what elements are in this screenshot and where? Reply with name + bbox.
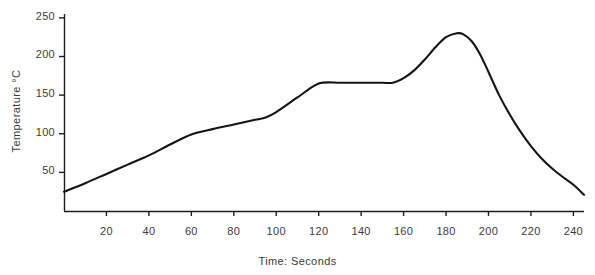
y-tick-label: 250 <box>10 10 55 22</box>
reflow-profile-chart: 50100150200250 2040608010012014016018020… <box>0 0 595 275</box>
x-tick-label: 240 <box>553 225 593 237</box>
x-tick-label: 140 <box>341 225 381 237</box>
x-tick-label: 200 <box>468 225 508 237</box>
x-tick-label: 160 <box>384 225 424 237</box>
x-tick-label: 100 <box>256 225 296 237</box>
x-tick-label: 80 <box>214 225 254 237</box>
x-tick-label: 60 <box>171 225 211 237</box>
x-tick-label: 20 <box>86 225 126 237</box>
y-axis-title: Temperature °C <box>10 46 22 176</box>
y-axis-ticks <box>59 18 64 173</box>
temperature-curve <box>64 33 584 195</box>
x-tick-label: 220 <box>511 225 551 237</box>
x-tick-label: 40 <box>129 225 169 237</box>
x-tick-label: 180 <box>426 225 466 237</box>
x-tick-label: 120 <box>299 225 339 237</box>
axis-lines <box>64 14 584 212</box>
x-axis-title: Time: Seconds <box>0 255 595 267</box>
